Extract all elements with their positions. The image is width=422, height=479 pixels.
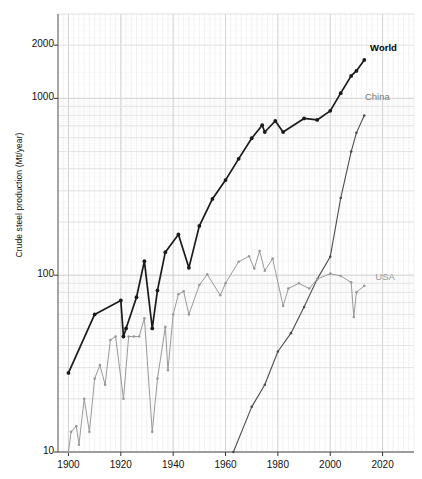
chart-figure: Crude steel production (Mt/year) 1010010…: [0, 0, 422, 479]
series-label-usa: USA: [375, 271, 395, 282]
x-tick-label: 1920: [110, 459, 132, 470]
x-tick-label: 1980: [267, 459, 289, 470]
x-tick-label: 1960: [214, 459, 236, 470]
x-axis-tick-labels: 1900192019401960198020002020: [0, 0, 422, 479]
x-tick-label: 1940: [162, 459, 184, 470]
x-tick-label: 2020: [371, 459, 393, 470]
series-label-china: China: [365, 91, 390, 102]
x-tick-label: 2000: [319, 459, 341, 470]
x-tick-label: 1900: [57, 459, 79, 470]
series-label-world: World: [370, 42, 397, 53]
